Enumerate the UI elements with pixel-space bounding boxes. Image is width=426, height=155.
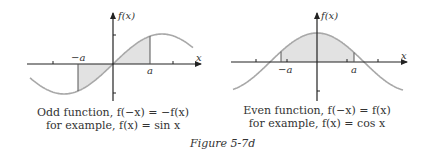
pos-a-label: a [351,64,357,75]
neg-a-label: −a [278,64,292,75]
y-axis-label: f(x) [320,10,338,21]
odd-caption-line1: Odd function, f(−x) = −f(x) [13,106,213,119]
odd-caption-line2: for example, f(x) = sin x [13,119,213,132]
even-function-graph: f(x) x −a a [231,10,407,101]
even-caption-line2: for example, f(x) = cos x [217,117,417,130]
neg-a-label: −a [71,52,85,63]
x-axis-label: x [401,50,407,61]
odd-function-graph: f(x) x −a a [27,10,202,101]
x-axis-label: x [196,52,202,63]
odd-caption: Odd function, f(−x) = −f(x) for example,… [13,106,213,132]
even-caption-line1: Even function, f(−x) = f(x) [217,104,417,117]
pos-a-label: a [147,65,153,76]
figure-title: Figure 5-7d [190,137,255,150]
even-caption: Even function, f(−x) = f(x) for example,… [217,104,417,130]
y-axis-label: f(x) [117,10,135,21]
